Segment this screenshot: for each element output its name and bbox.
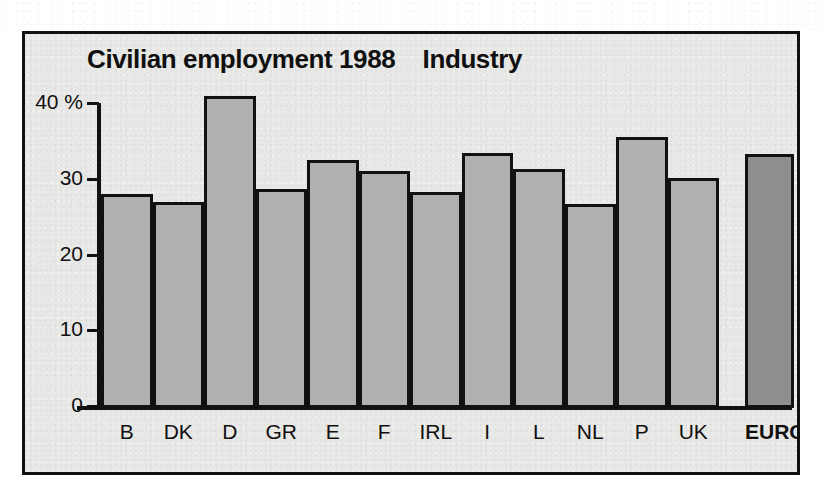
x-label-l: L <box>513 420 565 444</box>
x-label-d: D <box>204 420 256 444</box>
x-label-uk: UK <box>668 420 720 444</box>
x-label-irl: IRL <box>410 420 462 444</box>
bar-b <box>101 194 153 408</box>
bar-dk <box>153 202 205 408</box>
bar-nl <box>565 204 617 408</box>
chart-frame: Civilian employment 1988 Industry 40 %30… <box>22 31 800 475</box>
y-tick-30 <box>87 178 99 181</box>
x-label-euro-12: EURO 12 <box>745 420 794 444</box>
x-label-i: I <box>462 420 514 444</box>
y-tick-label-40: 40 % <box>25 90 83 114</box>
y-tick-40 <box>87 102 99 105</box>
y-tick-label-30: 30 <box>25 166 83 190</box>
bar-irl <box>410 192 462 408</box>
y-tick-label-0: 0 <box>25 393 83 417</box>
bar-d <box>204 96 256 408</box>
y-tick-label-10: 10 <box>25 317 83 341</box>
scan-speckle <box>0 0 823 30</box>
bar-f <box>359 171 411 408</box>
x-label-f: F <box>359 420 411 444</box>
x-label-gr: GR <box>256 420 308 444</box>
y-tick-label-20: 20 <box>25 242 83 266</box>
chart-title: Civilian employment 1988 Industry <box>87 44 522 75</box>
x-label-nl: NL <box>565 420 617 444</box>
bar-gr <box>256 189 308 408</box>
bar-uk <box>668 178 720 408</box>
x-label-dk: DK <box>153 420 205 444</box>
plot-area: 40 %3020100 BDKDGREFIRLILNLPUKEURO 12 <box>25 34 797 472</box>
y-tick-20 <box>87 254 99 257</box>
x-label-b: B <box>101 420 153 444</box>
y-tick-0 <box>87 405 99 408</box>
x-label-e: E <box>307 420 359 444</box>
bar-euro-12 <box>745 154 794 408</box>
x-label-p: P <box>616 420 668 444</box>
bar-i <box>462 153 514 408</box>
bar-p <box>616 137 668 408</box>
bar-l <box>513 169 565 408</box>
y-tick-10 <box>87 329 99 332</box>
scanned-page: Civilian employment 1988 Industry 40 %30… <box>0 0 823 498</box>
bar-e <box>307 160 359 408</box>
